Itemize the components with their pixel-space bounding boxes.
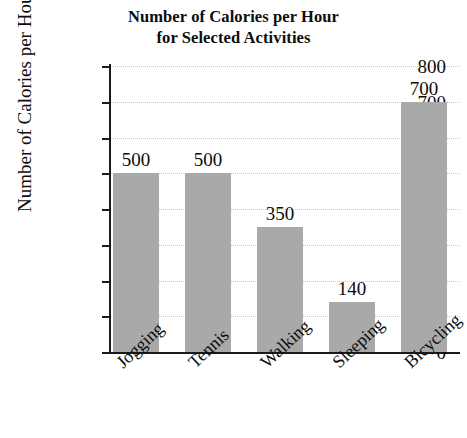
chart-title-line-2: for Selected Activities (0, 27, 467, 48)
bar-value-walking: 350 (257, 204, 303, 223)
y-tick-100 (102, 316, 111, 318)
y-tick-label-800: 800 (386, 57, 446, 76)
bar-tennis[interactable] (185, 173, 231, 352)
y-tick-800 (102, 66, 111, 68)
plot-area: 800 700 600 500 400 300 200 100 0 500 50 (110, 66, 460, 352)
bar-chart-figure: Number of Calories per Hour for Selected… (0, 0, 467, 438)
y-tick-0 (102, 352, 111, 354)
y-tick-700 (102, 102, 111, 104)
bar-value-jogging: 500 (113, 150, 159, 169)
bar-bicycling[interactable] (401, 102, 447, 352)
y-tick-200 (102, 281, 111, 283)
y-axis-title: Number of Calories per Hour (14, 0, 36, 212)
bar-value-bicycling: 700 (401, 79, 447, 98)
chart-title-line-1: Number of Calories per Hour (128, 7, 339, 26)
y-tick-600 (102, 138, 111, 140)
chart-title: Number of Calories per Hour for Selected… (0, 6, 467, 48)
bar-value-tennis: 500 (185, 150, 231, 169)
y-tick-300 (102, 245, 111, 247)
y-tick-400 (102, 209, 111, 211)
bar-value-sleeping: 140 (329, 279, 375, 298)
y-tick-500 (102, 173, 111, 175)
